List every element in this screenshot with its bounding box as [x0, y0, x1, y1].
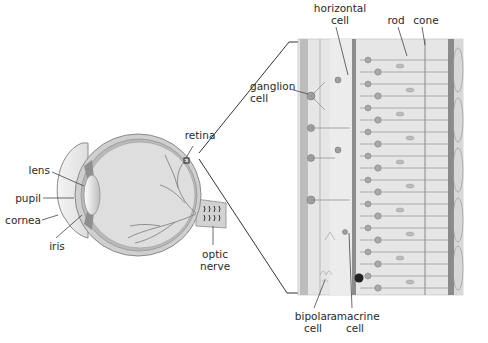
- label-amacrine-cell-line2: cell: [330, 322, 380, 334]
- label-optic-nerve: optic nerve: [200, 248, 230, 272]
- label-optic-nerve-line2: nerve: [200, 260, 230, 272]
- label-ganglion-cell-line1: ganglion: [250, 80, 300, 92]
- eyeball: [57, 134, 226, 256]
- label-optic-nerve-line1: optic: [200, 248, 230, 260]
- label-bipolar-cell-line2: cell: [293, 322, 333, 334]
- label-cornea: cornea: [0, 214, 41, 226]
- diagram-graphics: [0, 0, 488, 343]
- label-pupil: pupil: [10, 192, 41, 204]
- label-lens: lens: [20, 164, 50, 176]
- label-bipolar-cell-line1: bipolar: [293, 310, 333, 322]
- retina-detail-panel: [298, 39, 463, 295]
- amacrine-cell-body: [355, 274, 364, 283]
- lens-graphic: [84, 175, 100, 215]
- label-cone: cone: [410, 14, 442, 26]
- label-rod: rod: [384, 14, 408, 26]
- label-ganglion-cell: ganglion cell: [250, 80, 300, 104]
- label-iris: iris: [46, 240, 68, 252]
- label-horizontal-cell-line2: cell: [310, 14, 370, 26]
- label-ganglion-cell-line2: cell: [250, 92, 300, 104]
- label-retina: retina: [180, 129, 220, 141]
- label-amacrine-cell-line1: amacrine: [330, 310, 380, 322]
- label-horizontal-cell: horizontal cell: [310, 2, 370, 26]
- eye-retina-diagram: lens pupil cornea iris retina optic nerv…: [0, 0, 488, 343]
- label-amacrine-cell: amacrine cell: [330, 310, 380, 334]
- label-bipolar-cell: bipolar cell: [293, 310, 333, 334]
- label-horizontal-cell-line1: horizontal: [310, 2, 370, 14]
